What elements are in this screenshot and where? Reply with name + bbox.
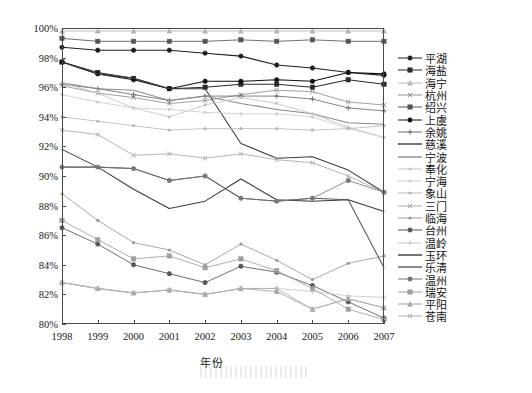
plot-area	[62, 28, 384, 324]
legend-item[interactable]: 奉化	[397, 163, 529, 175]
data-point	[381, 108, 386, 113]
data-point	[310, 38, 314, 42]
data-point	[239, 257, 243, 261]
data-point	[239, 242, 242, 245]
y-tick-label: 92%	[2, 141, 58, 152]
data-point	[311, 112, 314, 115]
legend-item[interactable]: 象山	[397, 187, 529, 199]
legend-item[interactable]: 上虞	[397, 113, 529, 125]
legend-label: 苍南	[423, 308, 448, 324]
x-tick-label: 2007	[374, 331, 395, 342]
legend-marker-icon	[397, 175, 423, 187]
y-tick-mark	[62, 58, 66, 59]
data-point	[239, 112, 242, 115]
data-point	[310, 66, 314, 70]
data-point	[275, 259, 278, 262]
legend-item[interactable]: 慈溪	[397, 138, 529, 150]
data-point	[132, 106, 135, 109]
series-line	[60, 192, 385, 281]
data-point	[382, 72, 386, 76]
data-point	[346, 174, 350, 178]
data-point	[60, 165, 64, 169]
data-point	[60, 45, 64, 49]
x-tick-label: 2002	[195, 331, 216, 342]
legend-marker-icon	[397, 261, 423, 273]
data-point	[96, 219, 99, 222]
y-tick-label: 94%	[2, 111, 58, 122]
series-line	[62, 149, 384, 211]
series-line	[60, 28, 387, 33]
legend-marker-icon	[397, 64, 423, 76]
x-tick-mark	[312, 320, 313, 324]
data-point	[274, 82, 278, 86]
legend-marker-icon	[397, 163, 423, 175]
series-line	[60, 165, 386, 203]
legend-item[interactable]: 玉环	[397, 249, 529, 261]
legend-item[interactable]: 临海	[397, 212, 529, 224]
data-point	[346, 78, 350, 82]
x-tick-label: 2000	[123, 331, 144, 342]
data-point	[60, 226, 64, 230]
legend-item[interactable]: 苍南	[397, 310, 529, 322]
y-tick-mark	[62, 324, 66, 325]
x-tick-mark	[348, 320, 349, 324]
series-line	[60, 81, 385, 139]
series-line	[60, 218, 386, 322]
data-point	[274, 269, 278, 273]
data-point	[131, 257, 135, 261]
data-point	[96, 165, 100, 169]
data-point	[131, 166, 135, 170]
y-tick-label: 90%	[2, 171, 58, 182]
data-point	[131, 263, 135, 267]
data-point	[346, 105, 351, 110]
legend-item[interactable]: 温岭	[397, 236, 529, 248]
x-tick-label: 2003	[230, 331, 251, 342]
data-point	[346, 70, 350, 74]
data-point	[167, 39, 171, 43]
data-point	[275, 102, 278, 105]
legend-marker-icon	[397, 126, 423, 138]
y-tick-mark	[62, 87, 66, 88]
legend-item[interactable]: 台州	[397, 224, 529, 236]
data-point	[167, 48, 171, 52]
y-tick-label: 80%	[2, 319, 58, 330]
data-point	[275, 127, 278, 130]
legend-item[interactable]: 乐清	[397, 261, 529, 273]
legend-item[interactable]: 平阳	[397, 298, 529, 310]
legend-marker-icon	[397, 249, 423, 261]
data-point	[275, 112, 278, 115]
legend-item[interactable]: 宁海	[397, 175, 529, 187]
legend-item[interactable]: 绍兴	[397, 101, 529, 113]
data-point	[96, 100, 99, 103]
data-point	[60, 218, 64, 222]
legend-item[interactable]: 宁波	[397, 150, 529, 162]
data-point	[347, 262, 350, 265]
legend-item[interactable]: 平湖	[397, 52, 529, 64]
legend-item[interactable]: 三门	[397, 200, 529, 212]
data-point	[131, 48, 135, 52]
legend-item[interactable]: 海宁	[397, 77, 529, 89]
x-tick-label: 2005	[302, 331, 323, 342]
x-tick-label: 1998	[52, 331, 73, 342]
data-point	[168, 129, 171, 132]
data-point	[239, 38, 243, 42]
data-point	[131, 39, 135, 43]
data-point	[311, 129, 314, 132]
y-axis-ticks: 80%82%84%86%88%90%92%94%96%98%100%	[0, 0, 58, 393]
x-tick-label: 2001	[159, 331, 180, 342]
legend-item[interactable]: 海盐	[397, 64, 529, 76]
data-point	[346, 178, 350, 182]
series-line	[62, 83, 384, 124]
legend-item[interactable]: 余姚	[397, 126, 529, 138]
data-point	[382, 190, 386, 194]
legend-item[interactable]: 温州	[397, 273, 529, 285]
y-tick-mark	[62, 206, 66, 207]
y-tick-mark	[62, 117, 66, 118]
data-point	[168, 115, 171, 118]
legend-item[interactable]: 杭州	[397, 89, 529, 101]
legend-item[interactable]: 瑞安	[397, 286, 529, 298]
data-point	[381, 295, 386, 300]
data-point	[239, 127, 242, 130]
data-point	[96, 92, 99, 95]
data-point	[203, 280, 207, 284]
